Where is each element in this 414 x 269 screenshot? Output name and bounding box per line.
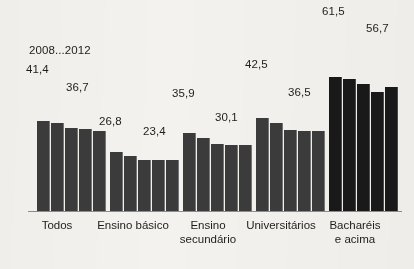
value-label-basico-last: 23,4 bbox=[143, 125, 166, 137]
bar-group-universitarios bbox=[256, 118, 325, 211]
bar bbox=[312, 131, 325, 211]
bar bbox=[79, 129, 92, 211]
bar bbox=[110, 152, 123, 211]
bar-group-todos bbox=[37, 121, 106, 212]
bar-group-bachareis bbox=[329, 77, 398, 211]
bar bbox=[138, 160, 151, 211]
bar bbox=[93, 131, 106, 211]
bar bbox=[329, 77, 342, 211]
category-label-bachareis: Bacharéis e acima bbox=[305, 218, 405, 246]
value-label-basico-first: 26,8 bbox=[99, 115, 122, 127]
bar bbox=[152, 160, 165, 211]
bar bbox=[225, 145, 238, 211]
legend-year-range: 2008...2012 bbox=[29, 44, 91, 56]
value-label-universitarios-first: 42,5 bbox=[245, 58, 268, 70]
bar bbox=[385, 87, 398, 211]
bar-chart: 2008...2012 41,4 36,7 Todos 26,8 23,4 En… bbox=[0, 0, 414, 269]
bar bbox=[371, 92, 384, 211]
bar bbox=[124, 156, 137, 211]
bar bbox=[298, 131, 311, 211]
bar bbox=[65, 128, 78, 212]
value-label-universitarios-last: 36,5 bbox=[288, 86, 311, 98]
value-label-bachareis-last: 56,7 bbox=[366, 22, 389, 34]
bar bbox=[239, 145, 252, 211]
x-axis-baseline bbox=[28, 211, 402, 212]
value-label-todos-first: 41,4 bbox=[26, 63, 49, 75]
bar bbox=[256, 118, 269, 211]
bar bbox=[270, 123, 283, 211]
bar bbox=[211, 144, 224, 212]
bar bbox=[51, 123, 64, 211]
value-label-todos-last: 36,7 bbox=[66, 81, 89, 93]
bar bbox=[197, 138, 210, 211]
value-label-secundario-first: 35,9 bbox=[172, 87, 195, 99]
bar bbox=[343, 79, 356, 211]
bar-group-ensino-secundario bbox=[183, 133, 252, 212]
bar bbox=[284, 130, 297, 211]
bar bbox=[183, 133, 196, 212]
bar bbox=[166, 160, 179, 211]
value-label-secundario-last: 30,1 bbox=[215, 111, 238, 123]
bar bbox=[37, 121, 50, 212]
bar-group-ensino-basico bbox=[110, 152, 179, 211]
value-label-bachareis-first: 61,5 bbox=[322, 5, 345, 17]
bar bbox=[357, 84, 370, 211]
